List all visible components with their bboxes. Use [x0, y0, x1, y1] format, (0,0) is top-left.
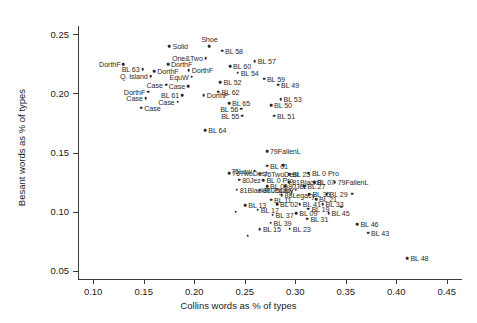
data-point — [351, 193, 354, 196]
data-point-label: BL 37 — [276, 211, 294, 218]
data-point — [308, 172, 311, 175]
data-point — [299, 203, 302, 206]
data-point — [259, 189, 262, 192]
data-point-label: BL 55 — [221, 112, 239, 119]
data-point-label: BL 49 — [281, 81, 299, 88]
data-point — [254, 60, 257, 63]
data-point — [190, 76, 193, 79]
data-point — [153, 70, 156, 73]
data-point — [203, 94, 206, 97]
data-point-label: BL 0 Pro — [312, 170, 339, 177]
data-point-label: BL 50 — [274, 102, 292, 109]
data-point-label: Shoe — [201, 36, 217, 43]
data-point-label: BL 02 — [280, 200, 298, 207]
data-point — [263, 77, 266, 80]
data-point-label: BL 54 — [241, 69, 259, 76]
data-point-label: DorthF — [192, 67, 213, 74]
data-point — [205, 57, 208, 60]
data-point — [406, 257, 409, 260]
y-axis-title: Besant words as % of types — [16, 23, 27, 273]
data-point — [269, 222, 272, 225]
data-point-label: Case — [147, 81, 163, 88]
data-point — [144, 97, 147, 100]
data-point — [234, 210, 237, 213]
data-point — [266, 150, 269, 153]
data-point — [288, 227, 291, 230]
data-point — [277, 83, 280, 86]
data-point — [208, 45, 211, 48]
data-point — [219, 81, 222, 84]
data-point — [333, 181, 336, 184]
data-point — [229, 65, 232, 68]
data-point — [306, 217, 309, 220]
data-point — [141, 68, 144, 71]
data-point-label: EquW — [169, 73, 188, 80]
data-point — [273, 115, 276, 118]
data-point — [165, 83, 168, 86]
data-point — [187, 85, 190, 88]
data-point — [147, 90, 150, 93]
data-point-label: BL 64 — [208, 127, 226, 134]
data-point-label: BL 58 — [225, 47, 243, 54]
scatter-plot: 0.050.100.150.200.25 0.100.150.200.250.3… — [0, 0, 477, 323]
data-point — [235, 188, 238, 191]
data-point-label: BL 15 — [263, 226, 281, 233]
data-point — [308, 193, 311, 196]
data-point — [176, 100, 179, 103]
data-point-label: BL 23 — [293, 225, 311, 232]
data-point-label: Q. Island — [120, 73, 148, 80]
data-point-label: BL 31 — [310, 215, 328, 222]
data-point — [282, 164, 285, 167]
data-point — [167, 63, 170, 66]
x-axis-title: Collins words as % of types — [0, 300, 477, 311]
data-point — [259, 228, 262, 231]
data-point — [204, 129, 207, 132]
data-point — [240, 107, 243, 110]
data-point-label: Case — [169, 83, 185, 90]
data-point-label: 80Jez — [242, 176, 261, 183]
data-point — [356, 223, 359, 226]
data-point-label: BL 01 — [270, 162, 288, 169]
data-point — [367, 232, 370, 235]
data-point-label: BL 48 — [410, 255, 428, 262]
data-point-label: 79FallenL — [270, 148, 301, 155]
data-point — [270, 198, 273, 201]
data-point-label: BL 57 — [258, 58, 276, 65]
data-point — [181, 94, 184, 97]
data-point-label: Solid — [172, 43, 187, 50]
data-point-label: 79FallenL — [338, 179, 369, 186]
data-point — [140, 106, 143, 109]
data-point — [238, 178, 241, 181]
data-point — [271, 213, 274, 216]
data-point — [266, 164, 269, 167]
data-point-label: BL 52 — [223, 79, 241, 86]
data-point — [149, 75, 152, 78]
data-point — [246, 235, 249, 238]
data-point — [168, 45, 171, 48]
data-point — [244, 204, 247, 207]
data-points-layer: SolidShoeBL 58One&TwoBL 57DorthFDorthFBL… — [0, 0, 477, 323]
data-point-label: Case — [126, 95, 142, 102]
data-point-label: BL 46 — [360, 221, 378, 228]
data-point-label: DorthF — [99, 61, 120, 68]
data-point — [236, 71, 239, 74]
data-point — [295, 212, 298, 215]
data-point — [241, 115, 244, 118]
data-point — [257, 209, 260, 212]
data-point-label: Case — [144, 104, 160, 111]
data-point — [228, 172, 231, 175]
data-point — [270, 104, 273, 107]
data-point — [187, 69, 190, 72]
data-point-label: DorthF — [207, 92, 228, 99]
data-point-label: BL 51 — [277, 112, 295, 119]
data-point — [221, 50, 224, 53]
data-point — [262, 179, 265, 182]
data-point-label: BL 45 — [332, 210, 350, 217]
data-point-label: BL 27 — [307, 183, 325, 190]
data-point — [303, 185, 306, 188]
data-point-label: BL 43 — [371, 229, 389, 236]
data-point — [340, 206, 343, 209]
data-point-label: Case — [158, 98, 174, 105]
